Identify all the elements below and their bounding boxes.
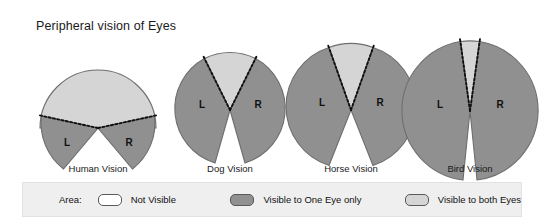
horse-vision-caption: Horse Vision [296,163,406,174]
swatch-not-visible-icon [98,194,122,206]
bird-left-eye-label: L [437,99,443,110]
legend-label-one-eye: Visible to One Eye only [263,194,361,205]
human-vision-caption: Human Vision [36,163,160,174]
dog-left-eye-label: L [199,99,205,110]
legend-area-label: Area: [59,194,82,205]
human-left-eye-label: L [64,137,70,148]
bird-left-monocular-region [402,42,470,181]
legend-label-both-eyes: Visible to both Eyes [438,194,521,205]
bird-right-monocular-region [470,42,538,181]
dog-vision-caption: Dog Vision [176,163,284,174]
legend-label-not-visible: Not Visible [131,194,176,205]
bird-right-eye-label: R [496,99,504,110]
diagram-human: L R [36,34,160,164]
legend-item-one-eye: Visible to One Eye only [230,194,361,206]
dog-right-eye-label: R [254,99,262,110]
legend-item-both-eyes: Visible to both Eyes [405,194,521,206]
swatch-both-eyes-icon [405,194,429,206]
horse-right-eye-label: R [376,97,384,108]
page-title: Peripheral vision of Eyes [36,19,176,33]
diagram-dog: L R [176,34,284,164]
human-right-eye-label: R [125,137,133,148]
peripheral-vision-figure: Peripheral vision of Eyes L R Human Visi… [0,0,543,224]
diagram-horse: L R [296,34,406,164]
horse-vision-svg: L R [296,34,406,164]
horse-left-eye-label: L [319,97,325,108]
bird-vision-svg: L R [414,34,526,164]
diagram-bird: L R [414,34,526,164]
swatch-one-eye-icon [230,194,254,206]
bird-vision-caption: Bird Vision [414,163,526,174]
human-vision-svg: L R [36,34,160,164]
legend-item-not-visible: Not Visible [98,194,176,206]
dog-vision-svg: L R [176,34,284,164]
legend: Area: Not Visible Visible to One Eye onl… [22,182,522,217]
